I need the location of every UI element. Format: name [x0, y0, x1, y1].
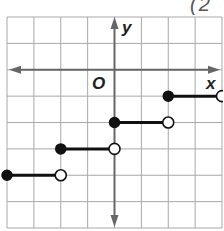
- open-endpoint-icon: [109, 143, 120, 154]
- x-axis-left-arrow-icon: [9, 66, 21, 74]
- y-axis-label: y: [121, 18, 133, 37]
- open-endpoint-icon: [217, 91, 224, 102]
- origin-label: O: [92, 74, 105, 93]
- closed-endpoint-icon: [2, 170, 12, 180]
- step-function-graph: y x O: [0, 0, 223, 231]
- closed-endpoint-icon: [56, 144, 66, 154]
- step-segments: [2, 91, 223, 181]
- x-axis-right-arrow-icon: [208, 66, 220, 74]
- closed-endpoint-icon: [110, 118, 120, 128]
- x-axis-label: x: [205, 74, 217, 93]
- open-endpoint-icon: [55, 170, 66, 181]
- y-axis-up-arrow-icon: [111, 17, 119, 29]
- closed-endpoint-icon: [163, 91, 173, 101]
- open-endpoint-icon: [163, 117, 174, 128]
- y-axis-down-arrow-icon: [111, 215, 119, 227]
